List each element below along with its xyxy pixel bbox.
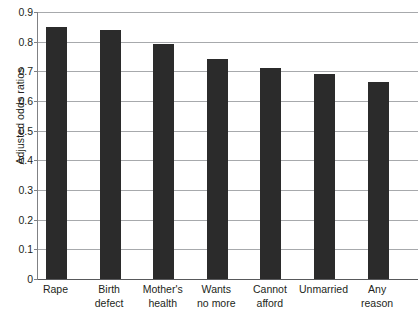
bar <box>260 68 281 279</box>
bar <box>153 44 174 279</box>
y-axis-tick-label: 0.3 <box>18 185 33 195</box>
bars-group <box>38 12 418 279</box>
x-axis-tick-label-line: Any <box>343 282 411 296</box>
bar <box>100 30 121 279</box>
y-axis-tick-label: 0.8 <box>18 37 33 47</box>
x-axis-tick-label-line: reason <box>343 296 411 310</box>
y-axis-tick-labels: 0.90.80.70.60.50.40.30.20.10 <box>0 0 35 319</box>
y-axis-tick-label: 0.9 <box>18 7 33 17</box>
y-axis-tick <box>34 279 38 280</box>
y-axis-tick-label: 0.7 <box>18 66 33 76</box>
x-axis-tick-labels: RapeBirthdefectMother'shealthWantsno mor… <box>37 282 417 318</box>
y-axis-tick-label: 0.2 <box>18 215 33 225</box>
y-axis-tick-label: 0.1 <box>18 244 33 254</box>
gridline <box>38 279 418 280</box>
bar <box>46 27 67 279</box>
x-axis-tick-label: Anyreason <box>343 282 411 310</box>
x-axis-tick-label-line: afford <box>236 296 304 310</box>
bar <box>207 59 228 279</box>
bar <box>368 82 389 279</box>
y-axis-tick-label: 0.5 <box>18 126 33 136</box>
y-axis-tick-label: 0.4 <box>18 155 33 165</box>
y-axis-tick-label: 0.6 <box>18 96 33 106</box>
bar <box>314 74 335 279</box>
plot-area <box>37 12 417 279</box>
